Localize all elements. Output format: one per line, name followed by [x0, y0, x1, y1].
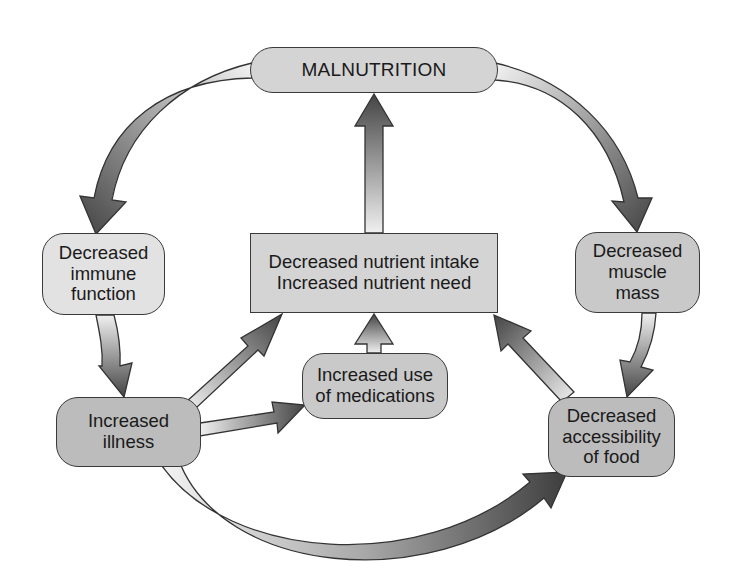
node-central-line-2: Increased nutrient need — [277, 273, 471, 294]
arrow-muscle-to-accessibility — [620, 313, 656, 397]
node-accessibility: Decreased accessibility of food — [548, 397, 675, 477]
node-central: Decreased nutrient intake Increased nutr… — [250, 233, 498, 313]
node-medications-line-1: Increased use — [317, 365, 433, 386]
arrow-illness-to-accessibility — [162, 458, 567, 560]
node-central-line-1: Decreased nutrient intake — [269, 252, 480, 273]
node-medications-line-2: of medications — [315, 386, 434, 407]
node-illness-line-2: illness — [103, 432, 154, 453]
arrow-medications-to-central — [355, 314, 393, 353]
node-accessibility-line-3: of food — [583, 447, 640, 468]
arrow-illness-to-medications — [200, 402, 305, 436]
arrow-illness-to-central — [186, 314, 282, 408]
node-immune: Decreased immune function — [42, 233, 165, 315]
arrow-malnutrition-to-muscle — [495, 63, 652, 232]
node-immune-line-3: function — [71, 284, 136, 305]
node-malnutrition: MALNUTRITION — [250, 47, 498, 93]
node-muscle: Decreased muscle mass — [575, 232, 700, 313]
node-medications: Increased use of medications — [302, 353, 448, 419]
node-immune-line-2: immune — [71, 264, 137, 285]
node-malnutrition-label: MALNUTRITION — [302, 59, 447, 80]
node-accessibility-line-1: Decreased — [567, 406, 656, 427]
node-muscle-line-2: muscle — [608, 262, 667, 283]
node-muscle-line-3: mass — [615, 283, 659, 304]
node-illness-line-1: Increased — [88, 411, 169, 432]
arrow-accessibility-to-central — [494, 315, 574, 402]
node-immune-line-1: Decreased — [59, 243, 148, 264]
node-illness: Increased illness — [56, 397, 201, 467]
arrow-malnutrition-to-immune — [80, 63, 252, 234]
arrow-central-to-malnutrition — [355, 94, 393, 233]
node-accessibility-line-2: accessibility — [562, 427, 661, 448]
arrow-immune-to-illness — [96, 315, 132, 397]
node-muscle-line-1: Decreased — [593, 241, 682, 262]
